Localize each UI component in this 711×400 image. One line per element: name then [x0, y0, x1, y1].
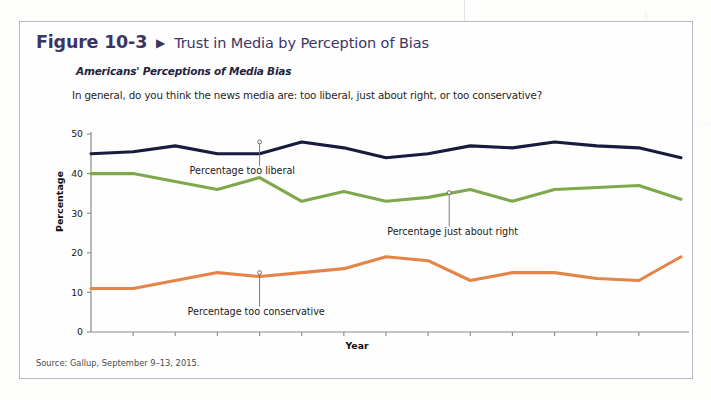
callout-marker — [258, 140, 262, 144]
x-axis-title: Year — [20, 340, 694, 351]
line-chart-svg: 0102030405020022003200420052006200720082… — [20, 104, 694, 336]
series-callout-label: Percentage just about right — [387, 226, 518, 237]
series-callout-label: Percentage too liberal — [190, 165, 295, 176]
series-callout-label: Percentage too conservative — [188, 306, 325, 317]
page-edge-artifact — [464, 0, 465, 22]
y-axis-tick-label: 50 — [71, 128, 83, 139]
y-axis-tick-label: 0 — [77, 326, 83, 336]
chart-subtitle: Americans' Perceptions of Media Bias — [76, 65, 291, 77]
chart-plot-area: Percentage Year 010203040502002200320042… — [20, 104, 694, 356]
y-axis-tick-label: 40 — [71, 168, 83, 179]
series-line — [91, 174, 681, 202]
right-triangle-icon: ▶ — [156, 37, 165, 49]
figure-title: Trust in Media by Perception of Bias — [174, 35, 429, 51]
figure-header: Figure 10-3 ▶ Trust in Media by Percepti… — [36, 32, 429, 52]
y-axis-tick-label: 30 — [71, 208, 83, 219]
y-axis-title: Percentage — [54, 157, 65, 247]
source-note: Source: Gallup, September 9–13, 2015. — [36, 358, 199, 368]
figure-container: Figure 10-3 ▶ Trust in Media by Percepti… — [19, 21, 693, 379]
page-root: Figure 10-3 ▶ Trust in Media by Percepti… — [0, 0, 711, 400]
chart-question-text: In general, do you think the news media … — [72, 89, 542, 101]
series-line — [91, 142, 681, 158]
series-line — [91, 257, 681, 289]
figure-number-label: Figure 10-3 — [36, 32, 147, 52]
callout-marker — [447, 191, 451, 195]
callout-marker — [258, 271, 262, 275]
y-axis-tick-label: 20 — [71, 247, 83, 258]
y-axis-tick-label: 10 — [71, 287, 83, 298]
